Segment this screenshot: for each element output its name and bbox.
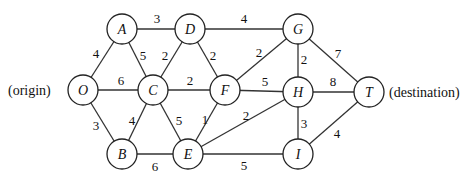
- destination-label: (destination): [389, 85, 460, 101]
- network-diagram: 4633522424562512527834 ADGOCFHTBEI (orig…: [0, 0, 476, 181]
- node-H: H: [283, 77, 313, 107]
- edge-weight: 6: [152, 159, 159, 174]
- edge-weight: 3: [93, 118, 100, 133]
- edge-weight: 6: [118, 73, 125, 88]
- node-label: T: [365, 85, 374, 100]
- node-B: B: [107, 139, 137, 169]
- node-G: G: [283, 14, 313, 44]
- node-E: E: [173, 139, 203, 169]
- edge-weight: 2: [256, 45, 263, 60]
- node-label: O: [78, 83, 88, 98]
- edge-weight: 4: [241, 11, 248, 26]
- node-C: C: [138, 75, 168, 105]
- edge-weight: 7: [335, 46, 342, 61]
- edge-weight: 5: [262, 74, 269, 89]
- node-label: C: [148, 83, 158, 98]
- edge-weight: 1: [202, 112, 209, 127]
- node-O: O: [68, 75, 98, 105]
- edge-weight: 2: [162, 48, 169, 63]
- edge-weight: 2: [243, 108, 250, 123]
- edge-weight: 2: [210, 48, 217, 63]
- edge-weight: 3: [301, 116, 308, 131]
- edge-weight: 2: [301, 52, 308, 67]
- edge-weight: 5: [176, 113, 183, 128]
- node-T: T: [354, 77, 384, 107]
- node-F: F: [210, 75, 240, 105]
- graph-canvas: 4633522424562512527834 ADGOCFHTBEI (orig…: [0, 0, 476, 181]
- edge-weight: 8: [330, 74, 337, 89]
- node-label: G: [293, 22, 303, 37]
- node-label: H: [292, 85, 304, 100]
- node-label: B: [118, 147, 127, 162]
- node-I: I: [283, 139, 313, 169]
- edge-weight: 4: [334, 126, 341, 141]
- origin-label: (origin): [8, 83, 51, 99]
- node-D: D: [175, 14, 205, 44]
- node-label: E: [183, 147, 193, 162]
- node-label: A: [117, 22, 127, 37]
- edge-weight: 5: [140, 48, 147, 63]
- edge-weight: 4: [93, 46, 100, 61]
- edge-weight: 2: [187, 73, 194, 88]
- edge-weight: 4: [129, 113, 136, 128]
- node-label: D: [184, 22, 195, 37]
- edge-weight: 5: [241, 158, 248, 173]
- node-A: A: [107, 14, 137, 44]
- node-label: F: [220, 83, 230, 98]
- edge-weight: 3: [154, 11, 161, 26]
